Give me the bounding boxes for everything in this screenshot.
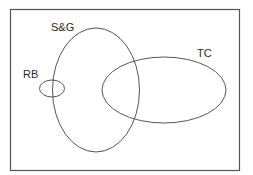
set-tc-label: TC bbox=[197, 47, 212, 59]
set-sg-ellipse bbox=[53, 28, 140, 152]
set-rb-label: RB bbox=[23, 68, 38, 80]
set-sg-label: S&G bbox=[51, 21, 74, 33]
set-tc-ellipse bbox=[102, 57, 226, 123]
diagram-frame bbox=[11, 10, 240, 171]
venn-diagram: S&G RB TC bbox=[0, 0, 253, 175]
set-rb-ellipse bbox=[40, 80, 65, 97]
